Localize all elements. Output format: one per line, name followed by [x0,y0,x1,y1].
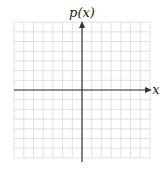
x-axis-arrow-icon [145,87,152,93]
y-axis-label: p(x) [69,5,95,20]
x-axis-label: x [152,82,160,97]
coordinate-plane: p(x) x [0,0,162,172]
